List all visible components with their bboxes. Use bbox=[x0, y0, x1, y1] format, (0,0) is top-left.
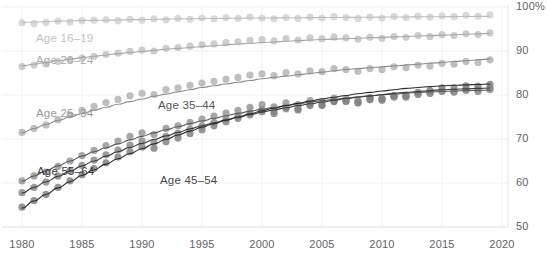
series-trendline-6 bbox=[22, 84, 490, 208]
series-points-3 bbox=[18, 56, 493, 136]
x-tick-label: 1985 bbox=[57, 238, 107, 250]
x-tick-label: 2005 bbox=[297, 238, 347, 250]
series-label-age-45-54: Age 45–54 bbox=[160, 174, 217, 186]
x-tick-label: 1980 bbox=[0, 238, 47, 250]
y-tick-label: 80 bbox=[516, 88, 529, 100]
x-tick-label: 2015 bbox=[417, 238, 467, 250]
series-points-1 bbox=[18, 11, 493, 27]
series-points-5 bbox=[18, 84, 493, 196]
y-tick-label: 90 bbox=[516, 44, 529, 56]
y-tick-label: 100% bbox=[516, 0, 545, 12]
x-tick-label: 2020 bbox=[477, 238, 527, 250]
series-points-6 bbox=[18, 81, 493, 211]
y-tick-label: 50 bbox=[516, 220, 529, 232]
y-tick-label: 70 bbox=[516, 132, 529, 144]
employment-rate-chart: 100%908070605019801985199019952000200520… bbox=[0, 0, 548, 259]
series-label-age-35-44: Age 35–44 bbox=[158, 99, 215, 111]
series-label-age-16-19: Age 16–19 bbox=[36, 32, 93, 44]
y-tick-label: 60 bbox=[516, 176, 529, 188]
x-tick-label: 2000 bbox=[237, 238, 287, 250]
series-label-age-25-34: Age 25–34 bbox=[36, 107, 93, 119]
x-tick-label: 1995 bbox=[177, 238, 227, 250]
series-label-age-20-24: Age 20–24 bbox=[36, 54, 93, 66]
series-label-age-55-64: Age 55–64 bbox=[37, 165, 94, 177]
x-tick-label: 1990 bbox=[117, 238, 167, 250]
x-tick-label: 2010 bbox=[357, 238, 407, 250]
